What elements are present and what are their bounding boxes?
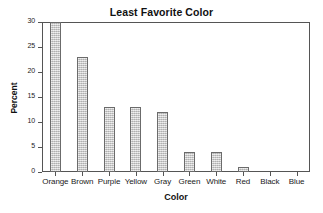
bar-purple <box>104 107 115 172</box>
x-tick-mark <box>243 172 244 176</box>
x-axis-title: Color <box>42 192 310 202</box>
y-tick-label: 15 <box>28 92 35 99</box>
y-tick-mark <box>38 147 42 148</box>
y-tick-label: 0 <box>31 167 35 174</box>
y-tick: 5 <box>0 147 42 148</box>
y-tick-label: 5 <box>31 142 35 149</box>
bar-chart: Least Favorite Color Percent 05101520253… <box>0 0 323 213</box>
bar-red <box>238 167 249 172</box>
x-tick-mark <box>163 172 164 176</box>
bar-brown <box>77 57 88 172</box>
y-tick-mark <box>38 47 42 48</box>
y-tick-label: 25 <box>28 42 35 49</box>
x-tick-mark <box>270 172 271 176</box>
y-tick: 0 <box>0 172 42 173</box>
x-tick-mark <box>55 172 56 176</box>
y-tick-label: 20 <box>28 67 35 74</box>
y-tick-mark <box>38 22 42 23</box>
x-tick-mark <box>189 172 190 176</box>
x-tick-mark <box>82 172 83 176</box>
x-tick-mark <box>297 172 298 176</box>
bar-white <box>211 152 222 172</box>
y-tick-label: 10 <box>28 117 35 124</box>
y-tick: 20 <box>0 72 42 73</box>
y-tick: 25 <box>0 47 42 48</box>
y-tick-mark <box>38 172 42 173</box>
x-tick-label-blue: Blue <box>279 177 314 186</box>
y-tick: 30 <box>0 22 42 23</box>
y-tick: 10 <box>0 122 42 123</box>
y-axis-title: Percent <box>9 0 19 63</box>
bar-yellow <box>130 107 141 172</box>
y-tick: 15 <box>0 97 42 98</box>
y-tick-mark <box>38 122 42 123</box>
bar-orange <box>50 22 61 172</box>
y-tick-label: 30 <box>28 17 35 24</box>
chart-title: Least Favorite Color <box>0 6 323 18</box>
bar-green <box>184 152 195 172</box>
x-tick-mark <box>109 172 110 176</box>
y-tick-mark <box>38 97 42 98</box>
x-tick-mark <box>216 172 217 176</box>
x-tick-mark <box>136 172 137 176</box>
y-tick-mark <box>38 72 42 73</box>
bar-gray <box>157 112 168 172</box>
